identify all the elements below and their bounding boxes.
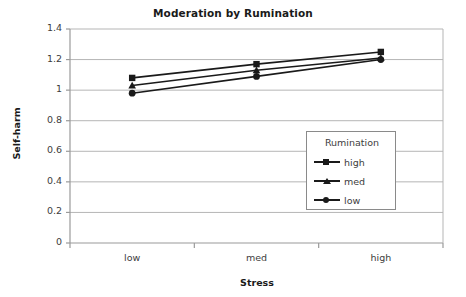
legend-swatch-square-icon [314, 156, 340, 168]
data-point-low-low [129, 90, 136, 97]
y-tick-label: 0.4 [22, 175, 62, 186]
y-tick-label: 0.6 [22, 144, 62, 155]
data-series-layer [128, 49, 384, 97]
legend-item-high[interactable]: high [314, 154, 365, 170]
legend-label: high [344, 157, 365, 168]
legend-label: low [344, 195, 360, 206]
data-point-low-med [253, 73, 260, 80]
y-tick-label: 1.2 [22, 53, 62, 64]
legend-swatch-triangle-icon [314, 175, 340, 187]
x-tick-label: low [92, 252, 172, 263]
x-axis-title: Stress [70, 277, 444, 288]
y-tick-label: 0.2 [22, 205, 62, 216]
legend-item-med[interactable]: med [314, 173, 365, 189]
y-tick-label: 1.4 [22, 22, 62, 33]
legend-title: Rumination [307, 137, 397, 148]
legend-item-low[interactable]: low [314, 192, 360, 208]
legend-swatch-circle-icon [314, 194, 340, 206]
chart-figure: Moderation by Rumination 00.20.40.60.811… [0, 0, 466, 297]
data-point-high-low [129, 75, 135, 81]
y-tick-label: 0 [22, 236, 62, 247]
x-tick-label: high [341, 252, 421, 263]
data-point-low-high [377, 56, 384, 63]
legend-label: med [344, 176, 365, 187]
data-point-high-high [378, 49, 384, 55]
y-axis-title: Self-harm [11, 84, 22, 184]
y-tick-label: 1 [22, 83, 62, 94]
y-tick-label: 0.8 [22, 114, 62, 125]
legend: Rumination highmedlow [306, 131, 396, 210]
data-point-high-med [253, 61, 259, 67]
x-tick-label: med [217, 252, 297, 263]
